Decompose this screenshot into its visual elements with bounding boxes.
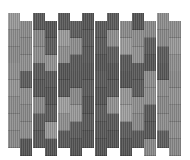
weave-cell: [144, 21, 156, 38]
weave-cell: [157, 97, 169, 114]
weave-cell: [95, 71, 107, 88]
weave-cell: [132, 80, 144, 97]
weave-cell: [20, 38, 32, 55]
weave-cell: [58, 114, 70, 131]
weave-cell: [20, 71, 32, 88]
weave-cell: [70, 105, 82, 122]
weave-cell: [169, 139, 181, 156]
weave-cell: [132, 30, 144, 47]
weave-cell: [58, 97, 70, 114]
weave-cell: [95, 105, 107, 122]
weave-cell: [169, 88, 181, 105]
weave-cell: [169, 55, 181, 72]
weave-cell: [45, 122, 57, 139]
weave-cell: [8, 114, 20, 131]
weave-cell: [107, 114, 119, 131]
weave-cell: [58, 63, 70, 80]
weave-cell: [95, 122, 107, 139]
weave-cell: [107, 131, 119, 148]
weave-cell: [33, 80, 45, 97]
weave-cell: [95, 139, 107, 156]
weave-cell: [45, 105, 57, 122]
weave-cell: [157, 80, 169, 97]
weave-cell: [33, 13, 45, 30]
weave-cell: [45, 71, 57, 88]
weave-cell: [132, 13, 144, 30]
weave-cell: [132, 97, 144, 114]
weave-cell: [144, 55, 156, 72]
weave-cell: [33, 114, 45, 131]
weave-cell: [157, 13, 169, 30]
weave-cell: [82, 97, 94, 114]
weave-cell: [82, 47, 94, 64]
weave-cell: [33, 131, 45, 148]
weave-cell: [70, 55, 82, 72]
weave-cell: [132, 63, 144, 80]
weave-cell: [120, 88, 132, 105]
weave-cell: [20, 55, 32, 72]
weave-cell: [58, 47, 70, 64]
weave-cell: [120, 105, 132, 122]
weave-cell: [33, 47, 45, 64]
weave-cell: [169, 122, 181, 139]
weave-cell: [70, 88, 82, 105]
weave-cell: [70, 71, 82, 88]
weave-cell: [169, 21, 181, 38]
weave-cell: [95, 38, 107, 55]
weave-cell: [58, 13, 70, 30]
weave-cell: [95, 55, 107, 72]
weave-cell: [45, 21, 57, 38]
weave-cell: [107, 47, 119, 64]
weave-cell: [144, 71, 156, 88]
weave-cell: [8, 30, 20, 47]
weave-cell: [120, 71, 132, 88]
weave-cell: [82, 80, 94, 97]
weave-cell: [8, 97, 20, 114]
weave-cell: [95, 88, 107, 105]
weave-cell: [45, 139, 57, 156]
weave-cell: [107, 13, 119, 30]
weave-cell: [70, 122, 82, 139]
weave-cell: [58, 80, 70, 97]
weave-cell: [82, 30, 94, 47]
weave-cell: [8, 47, 20, 64]
weave-cell: [82, 114, 94, 131]
weave-cell: [144, 88, 156, 105]
weave-cell: [58, 30, 70, 47]
weave-cell: [20, 88, 32, 105]
weave-cell: [20, 105, 32, 122]
weave-cell: [70, 21, 82, 38]
weave-cell: [58, 131, 70, 148]
weave-cell: [20, 139, 32, 156]
weave-cell: [45, 38, 57, 55]
weave-cell: [8, 13, 20, 30]
weave-cell: [8, 63, 20, 80]
weave-cell: [157, 131, 169, 148]
weave-cell: [45, 55, 57, 72]
weave-cell: [95, 21, 107, 38]
weave-cell: [144, 105, 156, 122]
weave-cell: [169, 105, 181, 122]
weave-cell: [169, 38, 181, 55]
weave-cell: [132, 47, 144, 64]
weave-cell: [157, 114, 169, 131]
woven-pattern: [0, 0, 190, 160]
weave-cell: [120, 55, 132, 72]
weave-cell: [107, 63, 119, 80]
weave-cell: [8, 80, 20, 97]
weave-cell: [120, 139, 132, 156]
weave-cell: [82, 63, 94, 80]
weave-cell: [120, 122, 132, 139]
weave-cell: [132, 114, 144, 131]
weave-cell: [157, 30, 169, 47]
weave-cell: [157, 47, 169, 64]
weave-cell: [120, 38, 132, 55]
weave-cell: [20, 122, 32, 139]
weave-cell: [132, 131, 144, 148]
weave-cell: [144, 38, 156, 55]
weave-cell: [20, 21, 32, 38]
weave-cell: [70, 38, 82, 55]
weave-cell: [82, 13, 94, 30]
weave-cell: [107, 80, 119, 97]
weave-cell: [33, 63, 45, 80]
